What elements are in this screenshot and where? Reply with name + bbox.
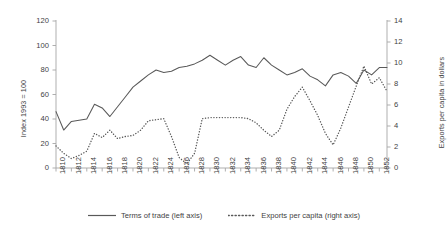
- x-axis-tick-label: 1810: [59, 157, 67, 174]
- x-axis-tick-label: 1844: [321, 157, 329, 174]
- y-axis-right-tick-label: 14: [394, 17, 418, 25]
- plot-area: [0, 0, 448, 235]
- series-line-exports-per-capita: [56, 66, 387, 164]
- y-axis-right-tick-label: 12: [394, 38, 418, 46]
- x-axis-tick-label: 1842: [306, 157, 314, 174]
- x-axis-tick-label: 1850: [367, 157, 375, 174]
- x-axis-tick-label: 1820: [136, 157, 144, 174]
- x-axis-tick-label: 1816: [106, 157, 114, 174]
- x-axis-tick-label: 1812: [75, 157, 83, 174]
- legend-solid-line-icon: [88, 211, 116, 220]
- y-axis-right-tick-label: 0: [394, 164, 418, 172]
- y-axis-left-tick-label: 100: [25, 42, 49, 50]
- x-axis-tick-label: 1852: [383, 157, 391, 174]
- x-axis-tick-label: 1846: [337, 157, 345, 174]
- chart-container: Index 1993 = 100 Exports per capita in d…: [0, 0, 448, 235]
- series-line-terms-of-trade: [56, 55, 387, 130]
- chart-legend: Terms of trade (left axis) Exports per c…: [0, 211, 448, 220]
- y-axis-right-tick-label: 8: [394, 80, 418, 88]
- y-axis-left-tick-label: 60: [25, 91, 49, 99]
- x-axis-tick-label: 1828: [198, 157, 206, 174]
- y-axis-left-tick-label: 120: [25, 17, 49, 25]
- x-axis-tick-label: 1818: [121, 157, 129, 174]
- legend-label-exports-per-capita: Exports per capita (right axis): [261, 211, 360, 220]
- x-axis-tick-label: 1830: [213, 157, 221, 174]
- x-axis-tick-label: 1836: [260, 157, 268, 174]
- y-axis-right-tick-label: 2: [394, 143, 418, 151]
- legend-item-exports-per-capita: Exports per capita (right axis): [228, 211, 360, 220]
- y-axis-right-tick-label: 6: [394, 101, 418, 109]
- x-axis-tick-label: 1840: [290, 157, 298, 174]
- x-axis-tick-label: 1834: [244, 157, 252, 174]
- legend-label-terms-of-trade: Terms of trade (left axis): [121, 211, 202, 220]
- x-axis-tick-label: 1814: [90, 157, 98, 174]
- x-axis-tick-label: 1826: [183, 157, 191, 174]
- x-axis-tick-label: 1822: [152, 157, 160, 174]
- y-axis-left-tick-label: 40: [25, 115, 49, 123]
- y-axis-right-tick-label: 10: [394, 59, 418, 67]
- y-axis-left-tick-label: 0: [25, 164, 49, 172]
- x-axis-tick-label: 1838: [275, 157, 283, 174]
- y-axis-left-tick-label: 80: [25, 66, 49, 74]
- y-axis-left-tick-label: 20: [25, 140, 49, 148]
- y-axis-right-tick-label: 4: [394, 122, 418, 130]
- x-axis-tick-label: 1824: [167, 157, 175, 174]
- legend-dotted-line-icon: [228, 211, 256, 220]
- legend-item-terms-of-trade: Terms of trade (left axis): [88, 211, 202, 220]
- x-axis-tick-label: 1848: [352, 157, 360, 174]
- x-axis-tick-label: 1832: [229, 157, 237, 174]
